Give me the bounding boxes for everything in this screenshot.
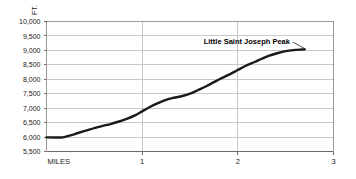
peak-annotation-label: Little Saint Joseph Peak — [204, 37, 291, 46]
y-axis-tick-label: 7,500 — [23, 90, 41, 97]
y-axis-tick-label: 9,000 — [23, 47, 41, 54]
x-axis-tick-label: 1 — [140, 157, 144, 166]
x-axis-tick-label: 2 — [236, 157, 240, 166]
x-axis-unit-label: MILES — [48, 157, 71, 166]
y-axis-label: FT. — [31, 5, 38, 15]
x-axis-tick-label: 3 — [331, 157, 335, 166]
y-axis-tick-label: 9,500 — [23, 33, 41, 40]
y-axis-tick-label: 6,500 — [23, 119, 41, 126]
chart-container: 10,0009,5009,0008,5008,0007,5007,0006,50… — [0, 0, 356, 179]
elevation-profile-chart: 10,0009,5009,0008,5008,0007,5007,0006,50… — [0, 0, 356, 179]
y-axis-tick-label: 6,000 — [23, 134, 41, 141]
y-axis-tick-label: 8,500 — [23, 61, 41, 68]
y-axis-tick-label: 5,500 — [23, 148, 41, 155]
y-axis-tick-label: 10,000 — [19, 18, 41, 25]
chart-background — [0, 0, 356, 179]
y-axis-tick-label: 7,000 — [23, 105, 41, 112]
y-axis-tick-label: 8,000 — [23, 76, 41, 83]
